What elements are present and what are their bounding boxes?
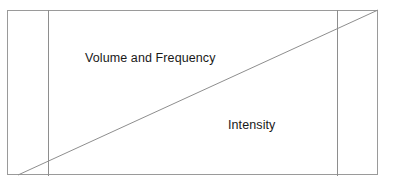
diagram-canvas: Volume and Frequency Intensity xyxy=(0,0,398,187)
label-intensity: Intensity xyxy=(228,119,275,132)
label-volume-frequency: Volume and Frequency xyxy=(85,52,216,65)
right-divider-line xyxy=(337,10,338,176)
left-divider-line xyxy=(48,10,49,176)
outer-rectangle xyxy=(7,10,378,175)
